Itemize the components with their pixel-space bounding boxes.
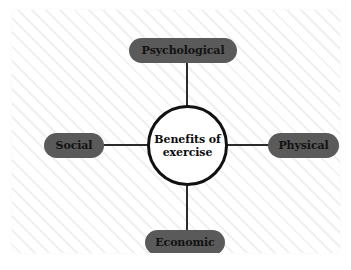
branch-node-physical-label: Physical (278, 140, 328, 152)
mind-map-diagram: Benefits of exercise Psychological Socia… (0, 0, 351, 270)
branch-node-economic[interactable]: Economic (145, 230, 225, 253)
connector-center-to-physical (226, 144, 269, 146)
branch-node-economic-label: Economic (155, 237, 214, 249)
branch-node-psychological-label: Psychological (142, 45, 225, 57)
branch-node-psychological[interactable]: Psychological (129, 38, 237, 63)
center-node-label: Benefits of exercise (154, 133, 220, 159)
connector-center-to-economic (186, 184, 188, 231)
branch-node-social-label: Social (56, 140, 93, 152)
branch-node-physical[interactable]: Physical (268, 133, 339, 158)
diagram-canvas: Benefits of exercise Psychological Socia… (12, 10, 340, 253)
center-node[interactable]: Benefits of exercise (147, 105, 228, 186)
connector-center-to-social (103, 144, 149, 146)
branch-node-social[interactable]: Social (44, 133, 104, 158)
center-node-label-line1: Benefits of (154, 133, 220, 146)
connector-center-to-psychological (186, 61, 188, 106)
center-node-label-line2: exercise (163, 146, 213, 159)
